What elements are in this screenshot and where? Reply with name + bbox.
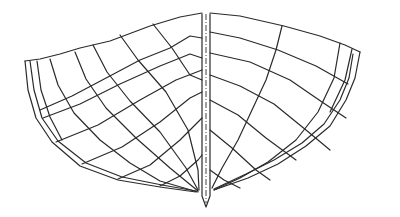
keel-centerline [202,14,210,207]
hull-right-half [210,13,360,190]
station-line [93,45,198,190]
waterline [210,75,330,150]
hull-body-plan-drawing [0,0,400,217]
hull-outline-line [214,52,360,190]
hull-left-half [25,13,202,192]
station-line [214,43,340,190]
hull-outline-line [210,13,360,52]
station-line [120,35,199,190]
station-line [75,52,198,191]
waterline [118,118,202,179]
waterline [210,53,346,118]
waterline [82,92,202,164]
hull-lines-svg [0,0,400,217]
waterline [40,36,202,110]
waterline [43,54,202,118]
